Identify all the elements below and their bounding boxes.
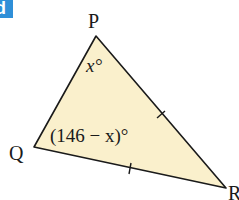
vertex-label-r: R: [228, 182, 239, 200]
vertex-label-p: P: [88, 10, 99, 32]
triangle-figure: P Q R x° (146 − x)°: [0, 0, 239, 200]
angle-label-q: (146 − x)°: [50, 125, 128, 147]
vertex-label-q: Q: [9, 142, 24, 164]
angle-label-p: x°: [85, 55, 102, 76]
